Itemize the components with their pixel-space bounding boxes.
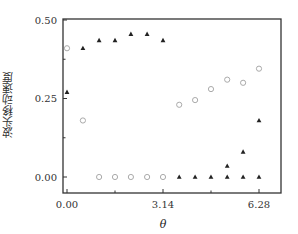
circle-marker bbox=[256, 66, 261, 71]
triangle-marker bbox=[145, 32, 150, 36]
triangle-marker bbox=[257, 174, 262, 178]
y-tick-label: 0.00 bbox=[35, 172, 57, 183]
scatter-chart: 0.000.250.50 0.003.146.28 θ bbox=[0, 0, 298, 234]
triangle-marker bbox=[241, 149, 246, 153]
circle-marker bbox=[80, 118, 85, 123]
x-axis: 0.003.146.28 bbox=[56, 189, 270, 210]
circle-marker bbox=[225, 77, 230, 82]
x-tick-label: 6.28 bbox=[248, 199, 270, 210]
circle-marker bbox=[177, 102, 182, 107]
plot-border bbox=[63, 19, 281, 193]
y-tick-label: 0.50 bbox=[35, 15, 57, 26]
triangle-marker bbox=[65, 90, 70, 94]
circle-marker bbox=[64, 46, 69, 51]
circle-marker bbox=[112, 174, 117, 179]
triangle-marker bbox=[80, 46, 85, 50]
y-axis-title: 波头移动速度 bbox=[3, 72, 17, 138]
plot-frame bbox=[63, 19, 281, 193]
circle-marker bbox=[97, 174, 102, 179]
triangle-marker bbox=[161, 38, 166, 42]
triangle-marker bbox=[177, 174, 182, 178]
circle-marker bbox=[241, 80, 246, 85]
y-tick-label: 0.25 bbox=[35, 93, 57, 104]
triangle-marker bbox=[209, 174, 214, 178]
triangle-marker bbox=[225, 163, 230, 167]
triangle-marker bbox=[257, 118, 262, 122]
triangle-marker bbox=[241, 174, 246, 178]
x-tick-label: 0.00 bbox=[56, 199, 78, 210]
circle-marker bbox=[208, 86, 213, 91]
triangle-marker bbox=[113, 38, 118, 42]
circle-marker bbox=[160, 174, 165, 179]
circle-marker bbox=[193, 97, 198, 102]
triangle-marker bbox=[225, 174, 230, 178]
triangle-marker bbox=[193, 174, 198, 178]
triangle-marker bbox=[97, 38, 102, 42]
x-tick-label: 3.14 bbox=[152, 199, 174, 210]
circle-marker bbox=[128, 174, 133, 179]
y-axis: 0.000.250.50 bbox=[35, 15, 67, 183]
circle-marker bbox=[145, 174, 150, 179]
x-axis-title: θ bbox=[160, 218, 167, 231]
data-points bbox=[64, 32, 261, 180]
triangle-marker bbox=[128, 32, 133, 36]
